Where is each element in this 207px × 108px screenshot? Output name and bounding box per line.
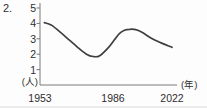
scan-edge-shading [0, 106, 207, 108]
chart-figure: 2. 5 4 3 2 1 (人) (年) 1953 1986 2022 [0, 0, 207, 108]
axes [37, 3, 178, 85]
data-line [44, 23, 172, 57]
axis-lines [40, 3, 177, 85]
line-series [44, 23, 172, 57]
chart-canvas [0, 0, 207, 108]
